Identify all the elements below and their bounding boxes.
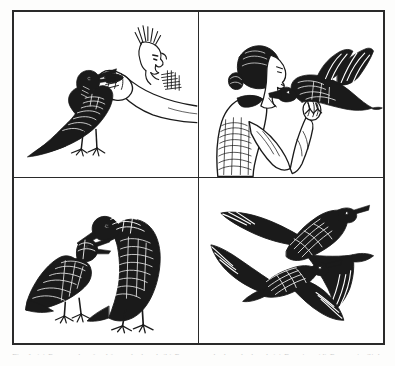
- panel-a-illustration: [14, 12, 198, 177]
- panel-b-raven-on-hand: b: [199, 12, 384, 178]
- panel-d-illustration: [199, 178, 384, 344]
- figure-caption-text: Fig. 1. (a) Raven takes food from the ha…: [12, 353, 385, 362]
- panel-d-ravens-in-flight: d: [199, 178, 384, 344]
- panel-c-begging-ravens: c: [14, 178, 199, 344]
- figure-caption: Fig. 1. (a) Raven takes food from the ha…: [12, 353, 385, 366]
- panel-c-illustration: [14, 178, 198, 344]
- figure-plate: a: [12, 10, 385, 345]
- panel-a-raven-taking-food: a: [14, 12, 199, 178]
- figure-page: a: [0, 0, 395, 366]
- panel-b-illustration: [199, 12, 384, 177]
